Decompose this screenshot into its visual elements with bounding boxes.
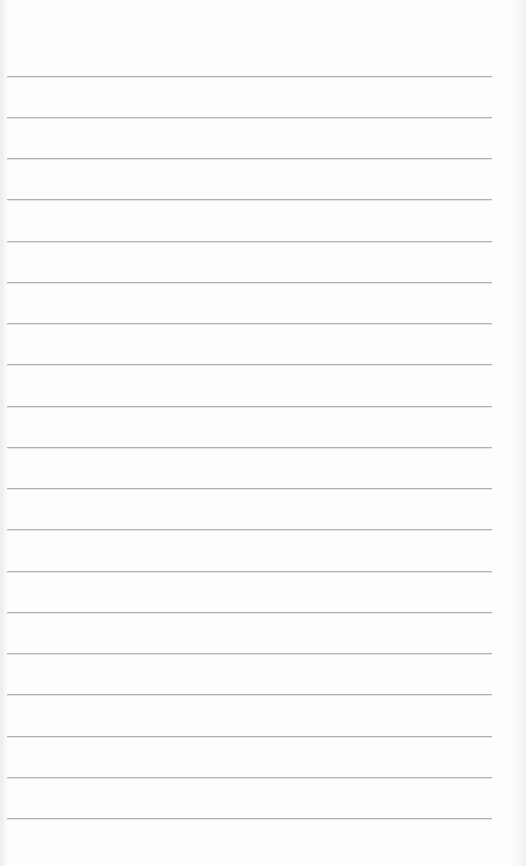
ruled-line <box>7 406 492 407</box>
ruled-line <box>7 488 492 489</box>
ruled-line <box>7 364 492 365</box>
ruled-line <box>7 447 492 448</box>
ruled-line <box>7 571 492 572</box>
ruled-line <box>7 653 492 654</box>
ruled-line <box>7 282 492 283</box>
ruled-line <box>7 694 492 695</box>
ruled-line <box>7 612 492 613</box>
lined-paper <box>0 0 526 866</box>
ruled-line <box>7 117 492 118</box>
ruled-line <box>7 777 492 778</box>
paper-right-edge-shadow <box>512 0 526 866</box>
ruled-line <box>7 529 492 530</box>
ruled-line <box>7 818 492 819</box>
ruled-line <box>7 323 492 324</box>
ruled-line <box>7 199 492 200</box>
ruled-line <box>7 76 492 77</box>
ruled-line <box>7 736 492 737</box>
ruled-line <box>7 241 492 242</box>
ruled-line <box>7 158 492 159</box>
